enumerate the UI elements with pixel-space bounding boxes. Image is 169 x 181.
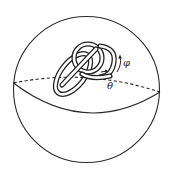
equator-front bbox=[14, 83, 161, 113]
diagram-canvas: φ θ bbox=[0, 0, 169, 181]
sphere-outline bbox=[14, 17, 160, 163]
phi-label: φ bbox=[123, 57, 130, 68]
sphere-knot-diagram: φ θ bbox=[0, 0, 169, 181]
phi-arrowhead bbox=[118, 55, 122, 59]
phi-arrow bbox=[117, 57, 121, 72]
knotted-tube bbox=[49, 44, 114, 100]
theta-label: θ bbox=[107, 80, 113, 91]
